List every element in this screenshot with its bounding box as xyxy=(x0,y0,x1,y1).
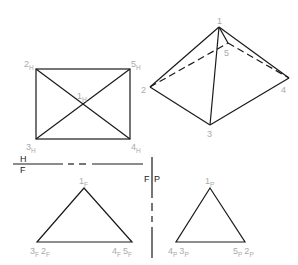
fold-label-h: H xyxy=(20,154,27,164)
profile-label-4-3: 4P3P xyxy=(168,246,189,258)
pictorial-label-1: 1 xyxy=(217,16,222,26)
top-view xyxy=(36,69,130,139)
top-label-2: 2H xyxy=(24,59,34,71)
pictorial-label-4: 4 xyxy=(281,85,286,95)
top-label-5: 5H xyxy=(131,59,141,71)
projection-diagram: 1 2 3 4 5 2H 5H 1H 3H 4H H F F P 1F 3F2F… xyxy=(0,0,298,265)
fold-label-p: P xyxy=(154,174,160,184)
fold-label-f2: F xyxy=(144,174,150,184)
front-label-1: 1F xyxy=(79,176,88,188)
fold-label-f: F xyxy=(20,165,26,175)
pictorial-label-2: 2 xyxy=(141,85,146,95)
front-label-3-2: 3F2F xyxy=(30,246,50,258)
profile-view xyxy=(176,188,245,242)
pictorial-pyramid xyxy=(150,27,289,125)
profile-label-5-2: 5P2P xyxy=(233,246,254,258)
front-label-4-5: 4F5F xyxy=(112,246,132,258)
top-label-3: 3H xyxy=(26,142,36,154)
pictorial-label-3: 3 xyxy=(207,129,212,139)
pictorial-label-5: 5 xyxy=(224,48,229,58)
profile-label-1: 1P xyxy=(205,176,214,188)
top-label-4: 4H xyxy=(131,142,141,154)
front-view xyxy=(37,188,132,242)
